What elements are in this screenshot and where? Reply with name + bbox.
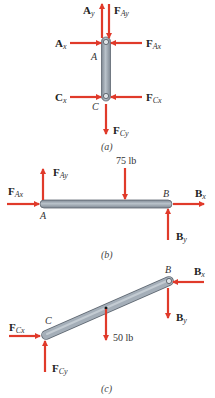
member-bc-highlight <box>47 280 169 334</box>
label-ay: Ay <box>83 4 95 18</box>
point-c-label: C <box>45 315 52 326</box>
pin-c <box>103 93 108 98</box>
label-fax: FAx <box>146 37 162 51</box>
label-by: By <box>176 311 187 325</box>
load-75-label: 75 lb <box>116 155 136 166</box>
label-fcx: FCx <box>146 91 162 105</box>
label-fax: FAx <box>8 185 24 199</box>
caption-b: (b) <box>101 249 113 261</box>
figure-a: Ay FAy Ax FAx A Cx FCx C FCy (a) <box>55 4 162 153</box>
point-a-label: A <box>39 210 47 221</box>
point-a-label: A <box>90 51 98 62</box>
point-b-label: B <box>163 188 169 199</box>
point-b-label: B <box>165 264 171 275</box>
caption-c: (c) <box>101 383 113 395</box>
caption-a: (a) <box>101 141 113 153</box>
figure-c: B Bx By C FCx 50 lb FCy (c) <box>9 264 205 395</box>
free-body-diagrams: Ay FAy Ax FAx A Cx FCx C FCy (a) FAx FAy… <box>0 0 215 398</box>
pin-a <box>103 39 108 44</box>
point-c-label: C <box>92 101 99 112</box>
label-by: By <box>176 230 187 244</box>
label-cx: Cx <box>55 91 67 105</box>
load-50-label: 50 lb <box>113 332 133 343</box>
label-fcx: FCx <box>9 321 25 335</box>
label-fay: FAy <box>53 166 68 180</box>
label-ax: Ax <box>55 37 67 51</box>
member-ac <box>102 37 111 101</box>
label-bx: Bx <box>194 265 205 279</box>
label-fcy: FCy <box>52 362 68 376</box>
member-ab <box>40 200 172 208</box>
figure-b: FAx FAy 75 lb B Bx A By (b) <box>7 155 206 261</box>
label-fay: FAy <box>114 4 129 18</box>
label-fcy: FCy <box>113 124 129 138</box>
pin-b <box>166 278 171 283</box>
label-bx: Bx <box>195 187 206 201</box>
